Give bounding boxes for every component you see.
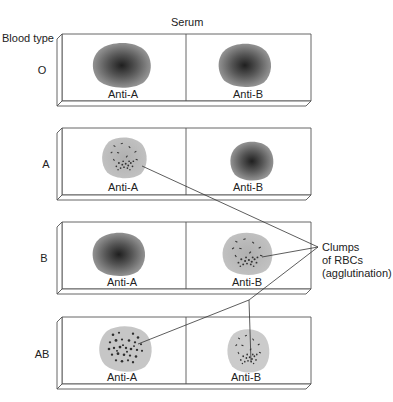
well-label-a-anti-a: Anti-A — [93, 181, 153, 193]
drop-b-anti-a — [93, 233, 145, 276]
drop-o-anti-a — [93, 43, 151, 88]
row-label-ab: AB — [27, 348, 57, 360]
well-label-a-anti-b: Anti-B — [218, 181, 278, 193]
callout-line-3: (agglutination) — [322, 267, 392, 280]
callout-line-1: Clumps — [322, 241, 392, 254]
well-label-b-anti-b: Anti-B — [217, 276, 277, 288]
clump-b-anti-b — [223, 233, 273, 275]
clump-ab-anti-a — [99, 326, 151, 372]
well-label-ab-anti-a: Anti-A — [92, 371, 152, 383]
agglutination-callout: Clumps of RBCs (agglutination) — [322, 241, 392, 280]
clump-a-anti-a — [102, 138, 147, 179]
row-label-a: A — [31, 158, 61, 170]
well-label-o-anti-b: Anti-B — [218, 88, 278, 100]
row-label-o: O — [27, 64, 57, 76]
well-label-o-anti-a: Anti-A — [93, 88, 153, 100]
row-label-b: B — [29, 252, 59, 264]
well-label-ab-anti-b: Anti-B — [216, 371, 276, 383]
drop-o-anti-b — [219, 44, 271, 87]
well-label-b-anti-a: Anti-A — [92, 276, 152, 288]
clump-ab-anti-b — [227, 329, 269, 372]
blood-typing-diagram — [0, 0, 393, 402]
callout-line-2: of RBCs — [322, 254, 392, 267]
serum-header: Serum — [171, 16, 203, 28]
drop-a-anti-b — [230, 142, 273, 181]
blood-type-header: Blood type — [2, 32, 54, 44]
